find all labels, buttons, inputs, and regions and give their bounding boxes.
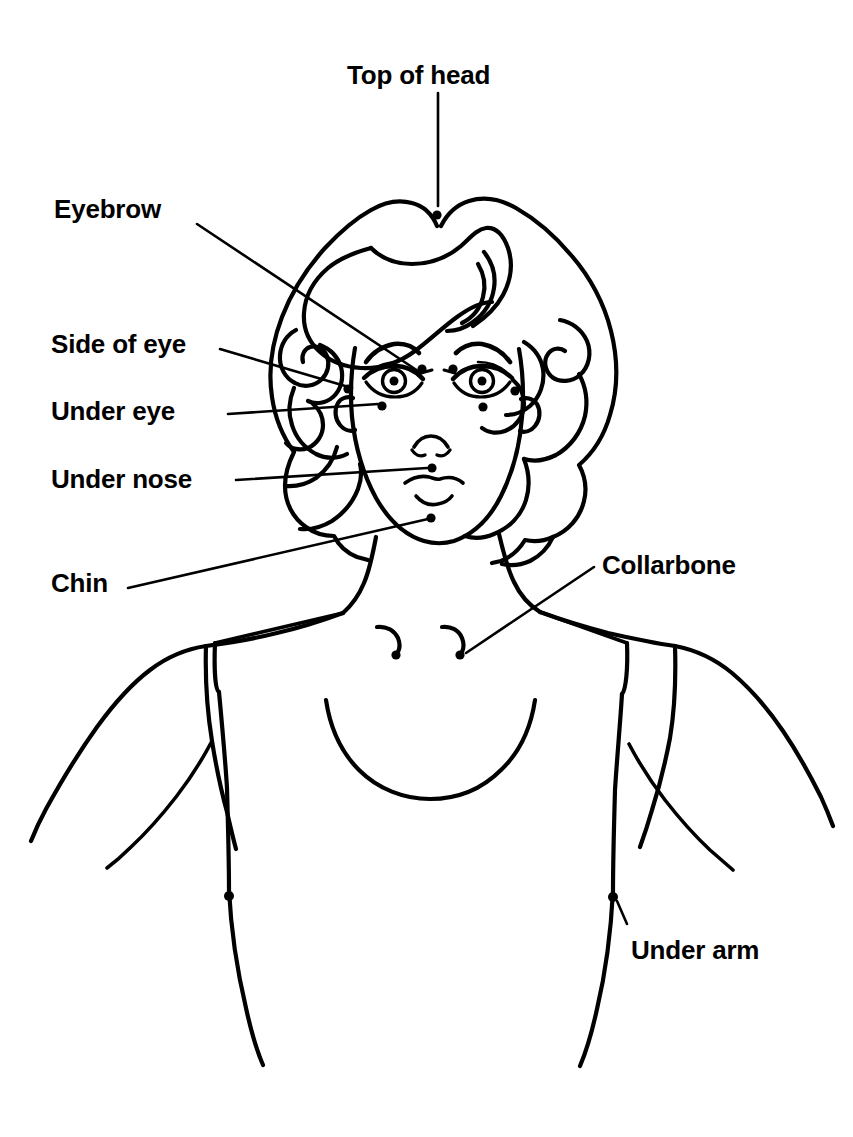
- collarbone-right: [455, 650, 464, 659]
- under-eye-right: [478, 402, 487, 411]
- chin-point: [426, 513, 435, 522]
- label-under-nose: Under nose: [51, 466, 192, 492]
- eye-left-pupil: [390, 377, 399, 386]
- label-collarbone: Collarbone: [602, 552, 736, 578]
- eye-right-pupil: [478, 377, 487, 386]
- under-arm-left: [224, 891, 234, 901]
- label-chin: Chin: [51, 570, 108, 596]
- label-under-arm: Under arm: [631, 937, 759, 963]
- under-arm-right: [608, 892, 618, 902]
- label-top-of-head: Top of head: [347, 62, 490, 88]
- label-eyebrow: Eyebrow: [54, 196, 161, 222]
- collarbone-left: [391, 650, 400, 659]
- eyebrow-right-point: [448, 364, 457, 373]
- label-under-eye: Under eye: [51, 398, 175, 424]
- side-of-eye-right: [510, 386, 519, 395]
- side-of-eye-left: [343, 384, 352, 393]
- under-nose-point: [427, 463, 436, 472]
- label-side-of-eye: Side of eye: [51, 331, 186, 357]
- top-of-head-point: [432, 210, 441, 219]
- diagram-page: Top of headEyebrowSide of eyeUnder eyeUn…: [0, 0, 853, 1137]
- eyebrow-left-point: [417, 364, 426, 373]
- under-eye-left: [377, 401, 386, 410]
